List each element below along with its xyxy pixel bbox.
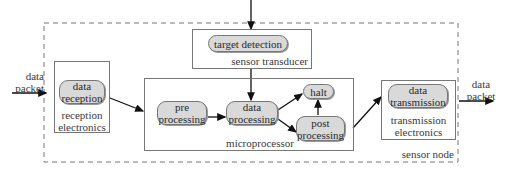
transmission-label-line2: electronics [381, 126, 456, 138]
pre-processing-line1: pre [175, 101, 189, 113]
halt-node[interactable]: halt [303, 84, 334, 99]
reception-electronics-label: reception electronics [54, 109, 110, 133]
data-transmission-line1: data [409, 84, 427, 96]
arrow-reception-to-pre [110, 98, 143, 111]
data-reception-node[interactable]: data reception [59, 80, 105, 104]
halt-label: halt [310, 86, 327, 98]
data-reception-line2: reception [62, 92, 103, 104]
sensor-transducer-label: sensor transducer [230, 55, 308, 67]
output-label-line2: packet [466, 90, 496, 102]
sensor-node-label: sensor node [396, 148, 454, 160]
transmission-electronics-label: transmission electronics [381, 114, 456, 138]
input-label-line1: data [14, 70, 44, 82]
data-processing-line1: data [243, 101, 261, 113]
post-processing-line2: processing [297, 129, 344, 141]
reception-label-line2: electronics [54, 121, 110, 133]
target-detection-label: target detection [214, 38, 282, 50]
post-processing-node[interactable]: post processing [296, 116, 345, 141]
transmission-label-line1: transmission [381, 114, 456, 126]
input-label-line2: packet [14, 82, 44, 94]
output-packet-label: data packet [466, 78, 496, 102]
input-packet-label: data packet [14, 70, 44, 94]
data-processing-line2: processing [228, 113, 275, 125]
post-processing-line1: post [311, 117, 329, 129]
microprocessor-label: microprocessor [220, 137, 300, 149]
reception-label-line1: reception [54, 109, 110, 121]
data-processing-node[interactable]: data processing [226, 101, 278, 125]
data-transmission-line2: transmission [390, 96, 446, 108]
arrow-micro-to-transmission [353, 97, 381, 128]
target-detection-node[interactable]: target detection [208, 35, 288, 52]
pre-processing-line2: processing [158, 113, 205, 125]
output-label-line1: data [466, 78, 496, 90]
pre-processing-node[interactable]: pre processing [157, 101, 207, 125]
data-reception-line1: data [73, 80, 91, 92]
data-transmission-node[interactable]: data transmission [388, 84, 448, 108]
